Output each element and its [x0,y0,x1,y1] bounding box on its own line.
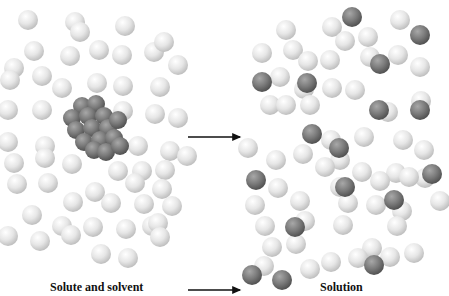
solvent-molecule [322,78,342,98]
solute-molecule [370,54,390,74]
solute-molecule [335,177,355,197]
solvent-molecule [4,153,24,173]
solute-molecule [272,270,292,290]
solvent-molecule [354,127,374,147]
solvent-molecule [410,57,430,77]
solvent-molecule [22,205,42,225]
solvent-molecule [345,80,365,100]
solvent-molecule [315,157,335,177]
solvent-molecule [238,138,258,158]
solvent-molecule [91,244,111,264]
solute-molecule [364,255,384,275]
solvent-molecule [300,95,320,115]
solvent-molecule [393,130,413,150]
solvent-molecule [300,259,320,279]
solvent-molecule [286,234,306,254]
solute-molecule [242,265,262,285]
solvent-molecule [352,162,372,182]
solvent-molecule [168,55,188,75]
solvent-molecule [150,227,170,247]
solvent-molecule [0,132,18,152]
solvent-molecule [150,77,170,97]
particle-illustration [0,0,449,296]
solvent-molecule [430,191,449,211]
solvent-molecule [145,104,165,124]
solvent-molecule [155,160,175,180]
solvent-molecule [168,108,188,128]
solvent-molecule [335,31,355,51]
solvent-molecule [35,148,55,168]
solvent-molecule [115,16,135,36]
solute-molecule [384,190,404,210]
solvent-molecule [125,173,145,193]
solute-molecule [246,170,266,190]
solvent-molecule [262,237,282,257]
solute-molecule [285,217,305,237]
solvent-molecule [388,45,408,65]
solvent-molecule [160,141,180,161]
solvent-molecule [245,195,265,215]
solvent-molecule [60,46,80,66]
solute-molecule [410,25,430,45]
solvent-molecule [32,100,52,120]
solvent-molecule [52,78,72,98]
solvent-molecule [414,140,434,160]
solvent-molecule [18,10,38,30]
solvent-molecule [63,192,83,212]
solute-molecule [111,137,129,155]
solvent-molecule [177,146,197,166]
solvent-molecule [24,41,44,61]
solvent-molecule [358,27,378,47]
solute-molecule [302,124,322,144]
solvent-molecule [7,174,27,194]
solvent-molecule [333,215,353,235]
solvent-molecule [162,196,182,216]
solvent-molecule [0,100,18,120]
solute-molecule [297,73,317,93]
solvent-molecule [70,22,90,42]
solvent-molecule [366,195,386,215]
solvent-molecule [87,73,107,93]
label-solution: Solution [320,280,363,295]
solute-molecule [369,100,389,120]
dissolution-diagram: Solute and solvent Solution [0,0,449,296]
solvent-molecule [404,243,424,263]
solvent-molecule [321,252,341,272]
solvent-molecule [387,216,407,236]
solvent-molecule [89,40,109,60]
solvent-molecule [118,248,138,268]
solvent-molecule [62,154,82,174]
solvent-molecule [128,136,148,156]
solvent-molecule [293,144,313,164]
solvent-molecule [252,43,272,63]
solvent-molecule [113,76,133,96]
solvent-molecule [83,217,103,237]
solvent-molecule [370,171,390,191]
solvent-molecule [30,231,50,251]
solvent-molecule [112,45,132,65]
solvent-molecule [268,178,288,198]
solvent-molecule [32,66,52,86]
solvent-molecule [290,191,310,211]
solvent-molecule [390,10,410,30]
solvent-molecule [276,95,296,115]
solvent-molecule [108,161,128,181]
solvent-molecule [38,173,58,193]
solvent-molecule [61,225,81,245]
solute-molecule [410,100,430,120]
solvent-molecule [0,226,18,246]
solute-molecule [252,72,272,92]
solute-molecule [422,164,442,184]
solvent-molecule [134,194,154,214]
solvent-molecule [320,50,340,70]
solvent-molecule [266,150,286,170]
solvent-molecule [101,193,121,213]
solvent-molecule [0,70,20,90]
label-solute-and-solvent: Solute and solvent [50,280,143,295]
solvent-molecule [270,67,290,87]
solvent-molecule [399,167,419,187]
solvent-molecule [255,216,275,236]
solvent-molecule [276,20,296,40]
solvent-molecule [154,32,174,52]
solvent-molecule [152,179,172,199]
